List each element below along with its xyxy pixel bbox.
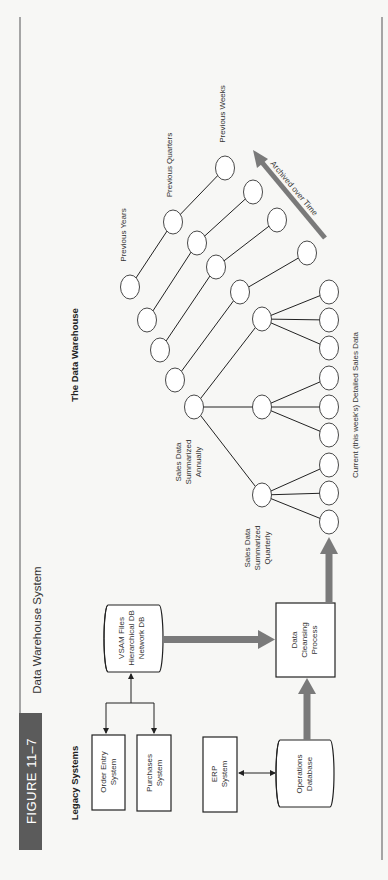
week-node xyxy=(320,481,339,505)
figure-badge: FIGURE 11–7 xyxy=(19,713,42,850)
svg-text:Summarized: Summarized xyxy=(253,526,262,571)
figure-title: Data Warehouse System xyxy=(31,566,43,693)
erp-system-box: ERP System xyxy=(203,737,237,812)
data-warehouse-diagram: FIGURE 11–7 Data Warehouse System Legacy… xyxy=(0,0,388,880)
vsam-database-cylinder: VSAM Files Hierarchical DB Network DB xyxy=(104,605,163,672)
quarterly-label: Sales Data Summarized Quarterly xyxy=(243,526,272,571)
data-cleansing-process-box: Data Cleansing Process xyxy=(276,603,335,677)
legacy-systems-heading: Legacy Systems xyxy=(69,746,80,820)
previous-quarter-node xyxy=(164,210,183,234)
week-node xyxy=(320,336,339,360)
svg-text:Database: Database xyxy=(305,756,314,791)
previous-year-node xyxy=(138,308,157,332)
svg-text:ERP: ERP xyxy=(210,766,219,782)
quarter-node xyxy=(253,483,272,507)
previous-week-node xyxy=(298,241,317,265)
svg-text:Operations: Operations xyxy=(295,754,304,793)
current-week-label: Current (this week's) Detailed Sales Dat… xyxy=(351,331,360,478)
svg-text:Sales Data: Sales Data xyxy=(243,528,252,568)
svg-text:Summarized: Summarized xyxy=(184,440,193,485)
svg-text:Quarterly: Quarterly xyxy=(263,532,272,565)
purchases-system-box: Purchases System xyxy=(137,735,171,811)
svg-text:System: System xyxy=(220,760,229,787)
week-node xyxy=(320,308,339,332)
week-node xyxy=(320,366,339,390)
previous-year-node xyxy=(121,275,140,299)
legacy-connectors xyxy=(106,674,154,733)
svg-text:Network DB: Network DB xyxy=(137,617,146,660)
previous-years-label: Previous Years xyxy=(119,208,128,261)
week-node xyxy=(320,423,339,447)
data-warehouse-heading: The Data Warehouse xyxy=(69,308,80,402)
operations-database-cylinder: Operations Database xyxy=(276,740,334,807)
svg-text:Data: Data xyxy=(290,631,299,648)
svg-text:Annually: Annually xyxy=(194,447,203,478)
week-node xyxy=(320,395,339,419)
previous-quarter-node xyxy=(188,231,207,255)
svg-text:VSAM Files: VSAM Files xyxy=(117,617,126,659)
figure-number: FIGURE 11–7 xyxy=(24,738,39,824)
previous-year-node xyxy=(166,368,185,392)
svg-text:Hierarchical DB: Hierarchical DB xyxy=(127,610,136,666)
vsam-to-cleansing-arrow xyxy=(163,630,275,649)
previous-weeks-label: Previous Weeks xyxy=(218,85,227,143)
svg-text:Purchases: Purchases xyxy=(145,754,154,792)
annual-label: Sales Data Summarized Annually xyxy=(174,440,203,485)
week-node xyxy=(320,510,339,534)
previous-quarter-node xyxy=(207,255,226,279)
previous-week-node xyxy=(244,180,263,204)
week-node xyxy=(320,453,339,477)
previous-week-node xyxy=(268,208,287,232)
week-node xyxy=(320,280,339,304)
previous-quarter-node xyxy=(231,280,250,304)
svg-text:System: System xyxy=(109,758,118,785)
order-entry-system-box: Order Entry System xyxy=(92,735,125,810)
quarter-node xyxy=(253,307,272,331)
svg-text:System: System xyxy=(155,759,164,786)
quarter-node xyxy=(253,395,272,419)
previous-week-node xyxy=(216,156,235,180)
svg-text:Cleansing: Cleansing xyxy=(300,622,309,658)
svg-text:Order Entry: Order Entry xyxy=(99,751,108,792)
cleansing-to-warehouse-arrow xyxy=(320,537,338,603)
previous-year-node xyxy=(151,338,170,362)
svg-text:Sales Data: Sales Data xyxy=(174,442,183,482)
archived-over-time-arrow: Archived over Time xyxy=(253,150,325,238)
previous-quarters-label: Previous Quarters xyxy=(165,133,174,197)
operations-to-cleansing-arrow xyxy=(298,678,316,740)
annual-node xyxy=(185,395,204,419)
svg-text:Process: Process xyxy=(310,626,319,655)
